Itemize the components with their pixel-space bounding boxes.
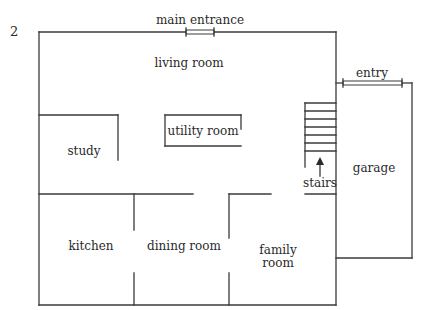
dining-room-label: dining room [147,239,221,253]
main-entrance-label: main entrance [156,13,244,27]
figure-number: 2 [10,24,18,39]
study-label: study [67,144,100,158]
entry-label: entry [356,66,388,80]
kitchen-label: kitchen [68,239,113,253]
stairs-arrow-icon [316,157,324,176]
family-room-label-line1: family [259,243,297,257]
family-room-label-line2: room [262,256,294,270]
living-room-label: living room [154,56,224,70]
garage-label: garage [353,161,396,175]
utility-room-label: utility room [167,124,239,138]
main-entrance-door [186,28,214,36]
floor-plan: 2 [0,0,433,310]
stairs-label: stairs [303,176,337,190]
entry-door [343,79,402,87]
